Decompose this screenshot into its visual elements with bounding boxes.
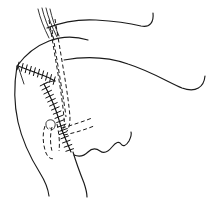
figure-canvas xyxy=(0,0,221,198)
surgical-line-drawing-figure: Black-and-white line drawing of a latera… xyxy=(0,0,221,198)
figure-background xyxy=(0,0,221,198)
